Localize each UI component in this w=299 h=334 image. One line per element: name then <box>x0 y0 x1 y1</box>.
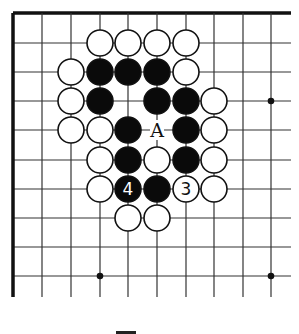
black-stone <box>144 176 170 202</box>
move-number-label: 3 <box>181 179 192 199</box>
white-stone <box>115 205 141 231</box>
black-stone-4: 4 <box>115 176 141 202</box>
white-stone <box>173 59 199 85</box>
point-label-A: A <box>149 119 164 141</box>
star-point <box>268 98 275 105</box>
white-stone <box>87 117 113 143</box>
white-stone <box>87 30 113 56</box>
black-stone <box>173 88 199 114</box>
white-stone <box>201 147 227 173</box>
white-stone-3: 3 <box>173 176 199 202</box>
white-stone <box>87 147 113 173</box>
black-stone <box>87 88 113 114</box>
go-board: 43 A <box>0 0 299 334</box>
black-stone <box>87 59 113 85</box>
white-stone <box>144 205 170 231</box>
white-stone <box>58 117 84 143</box>
black-stone <box>144 88 170 114</box>
white-stone <box>115 30 141 56</box>
white-stone <box>58 59 84 85</box>
white-stone <box>87 176 113 202</box>
move-number-label: 4 <box>123 179 134 199</box>
white-stone <box>58 88 84 114</box>
white-stone <box>144 147 170 173</box>
black-stone <box>115 147 141 173</box>
black-stone <box>115 117 141 143</box>
black-stone <box>115 59 141 85</box>
white-stone <box>144 30 170 56</box>
point-labels: A <box>149 119 164 141</box>
white-stone <box>201 117 227 143</box>
white-stone <box>201 176 227 202</box>
black-stone <box>144 59 170 85</box>
white-stone <box>173 30 199 56</box>
star-point <box>97 273 104 280</box>
black-stone <box>173 147 199 173</box>
star-point <box>268 273 275 280</box>
white-stone <box>201 88 227 114</box>
black-stone <box>173 117 199 143</box>
